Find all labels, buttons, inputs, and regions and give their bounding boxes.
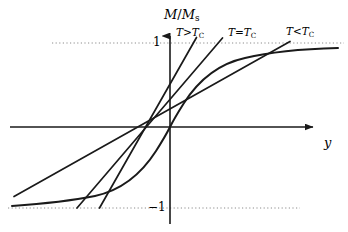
y-axis-title-denominator-subscript: s (195, 13, 200, 23)
curve-label-t-less-tc-t: T (286, 25, 293, 37)
curve-label-t-less-tc: T<TC (286, 26, 314, 38)
curve-label-t-greater-tc-tc: T (192, 26, 199, 38)
tick-label-positive-one: 1 (153, 36, 161, 48)
curve-t-equal-tc (77, 38, 223, 208)
y-axis-title: M/Ms (164, 8, 200, 23)
curve-label-t-equal-tc: T=TC (228, 27, 256, 39)
curve-label-t-equal-tc-tc: T (244, 26, 251, 38)
tick-label-negative-one: −1 (148, 201, 166, 213)
y-axis-title-numerator: M (164, 7, 177, 22)
curve-label-t-equal-tc-t: T (228, 26, 235, 38)
curve-label-t-less-tc-operator: < (293, 25, 302, 37)
y-axis-title-denominator: M (182, 7, 195, 22)
curve-label-t-greater-tc: T>TC (176, 27, 204, 39)
curve-t-greater-tc (100, 38, 197, 209)
curve-label-t-equal-tc-operator: = (235, 26, 244, 38)
magnetization-figure: M/Ms y 1 −1 T>TC T=TC T<TC (0, 0, 348, 232)
curve-label-t-less-tc-subscript: C (309, 30, 314, 39)
curve-t-less-tc-line (14, 42, 290, 197)
curve-label-t-less-tc-tc: T (302, 25, 309, 37)
x-axis-label: y (324, 136, 331, 149)
curve-label-t-greater-tc-operator: > (183, 26, 192, 38)
curve-label-t-equal-tc-subscript: C (251, 31, 256, 40)
curve-label-t-greater-tc-t: T (176, 26, 183, 38)
curve-label-t-greater-tc-subscript: C (199, 31, 204, 40)
